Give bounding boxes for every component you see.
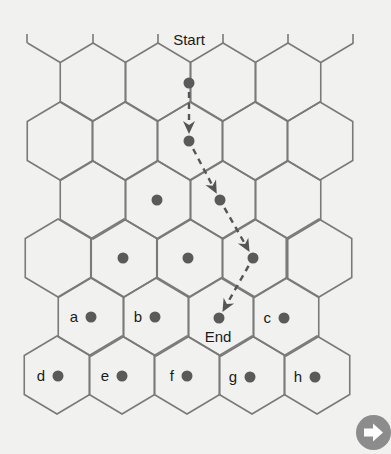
start-dot (184, 78, 195, 89)
cell-label-f: f (170, 367, 175, 384)
hex-cell (27, 102, 93, 180)
hex-cell (287, 102, 353, 180)
right-arrow-icon (356, 415, 391, 450)
cell-dot (118, 253, 129, 264)
arrowhead-icon (183, 121, 195, 134)
hex-cell (25, 219, 91, 297)
cell-label-b: b (134, 308, 142, 325)
hex-cell (255, 43, 321, 121)
cell-dot-g (245, 372, 256, 383)
cell-dot-e (117, 371, 128, 382)
route-dot (248, 253, 259, 264)
cell-dot-b (150, 312, 161, 323)
arrowhead-icon (222, 298, 234, 312)
cell-dot (152, 195, 163, 206)
cell-dot-c (279, 313, 290, 324)
hex-grid-diagram: abcdefgh Start End (0, 0, 391, 454)
cell-label-e: e (101, 367, 109, 384)
route-segment (193, 149, 212, 185)
hex-grid (24, 34, 353, 414)
route-segment (224, 208, 244, 243)
partial-hex-edge (321, 43, 354, 63)
cell-label-g: g (229, 368, 237, 385)
next-button[interactable] (356, 415, 391, 450)
hex-cell (60, 43, 126, 121)
start-label: Start (173, 31, 206, 48)
end-dot (214, 313, 225, 324)
route-dot (215, 195, 226, 206)
cell-dot-h (310, 372, 321, 383)
hex-cell (190, 43, 256, 121)
hex-cell (60, 161, 126, 239)
hex-cell (255, 161, 321, 239)
hex-cell (286, 219, 352, 297)
cell-dot (183, 253, 194, 264)
cell-label-h: h (294, 368, 302, 385)
hex-cell (222, 102, 288, 180)
route-dot (184, 136, 195, 147)
partial-hex-edge (28, 43, 61, 63)
hex-cell (92, 102, 158, 180)
end-label: End (205, 328, 232, 345)
cell-dot-f (182, 371, 193, 382)
cell-dot-d (53, 371, 64, 382)
cell-label-c: c (264, 309, 272, 326)
hex-cell (125, 43, 191, 121)
cell-label-d: d (37, 367, 45, 384)
cell-label-a: a (70, 308, 79, 325)
cell-dot-a (86, 312, 97, 323)
